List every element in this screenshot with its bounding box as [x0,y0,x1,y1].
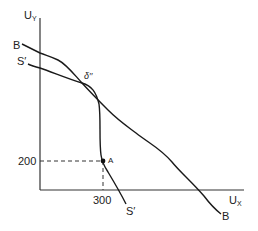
curve-s-prime-label-bottom: S′ [126,205,135,217]
utility-possibility-diagram: UY UX B S′ S′ B δ′′ A 200 300 [0,0,258,231]
point-a-marker [101,159,106,164]
x-tick-300: 300 [93,194,111,206]
point-a-label: A [108,156,114,165]
curve-s-prime [28,64,126,204]
intersection-label: δ′′ [84,71,93,81]
curve-b-label-bottom: B [222,210,229,222]
curve-b [22,44,221,214]
y-tick-200: 200 [18,155,36,167]
curve-b-label-top: B [13,39,20,51]
y-axis-label: UY [24,9,37,22]
curve-s-prime-label-top: S′ [17,55,26,67]
x-axis-label: UX [229,194,242,207]
